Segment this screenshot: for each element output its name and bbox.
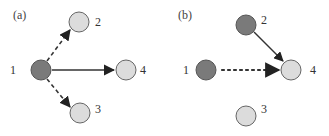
panel-a-label: (a) — [13, 8, 26, 22]
node-a-1-label: 1 — [10, 63, 16, 77]
node-a-4-label: 4 — [140, 63, 146, 77]
node-a-3 — [70, 103, 90, 123]
edge-a-1-to-2 — [47, 30, 70, 61]
panel-a: (a) 1 2 4 3 — [10, 8, 146, 123]
node-b-2-label: 2 — [261, 13, 267, 27]
node-a-1 — [31, 60, 51, 80]
edge-a-1-to-3 — [47, 79, 70, 107]
panel-b-label: (b) — [178, 8, 192, 22]
diagram-canvas: (a) 1 2 4 3 (b) 1 2 4 3 — [0, 0, 329, 136]
edge-b-2-to-4 — [254, 32, 283, 61]
node-b-4-label: 4 — [310, 63, 316, 77]
node-a-4 — [116, 60, 136, 80]
node-a-2 — [69, 12, 89, 32]
panel-b: (b) 1 2 4 3 — [178, 8, 316, 126]
node-b-2 — [236, 15, 256, 35]
node-b-3-label: 3 — [261, 102, 267, 116]
node-b-1-label: 1 — [183, 63, 189, 77]
node-a-2-label: 2 — [95, 15, 101, 29]
node-b-1 — [196, 60, 216, 80]
node-b-4 — [281, 60, 301, 80]
node-a-3-label: 3 — [95, 102, 101, 116]
node-b-3 — [236, 106, 256, 126]
